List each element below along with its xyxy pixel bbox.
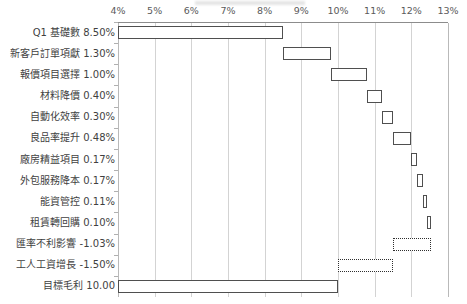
x-tick-label: 7%	[220, 5, 235, 16]
category-label: 外包服務降本 0.17%	[20, 175, 115, 187]
category-label: 匯率不利影響 -1.03%	[16, 238, 115, 250]
category-label: 報價項目選擇 1.00%	[20, 69, 115, 81]
axis-tick	[114, 212, 118, 213]
axis-tick	[114, 149, 118, 150]
category-label: 自動化效率 0.30%	[30, 111, 115, 123]
x-tick-label: 11%	[364, 5, 385, 16]
axis-tick	[114, 234, 118, 235]
category-label: 能資管控 0.11%	[40, 196, 115, 208]
waterfall-bar[interactable]	[382, 111, 393, 124]
axis-tick	[114, 191, 118, 192]
x-tick-label: 8%	[257, 5, 272, 16]
x-tick-label: 10%	[327, 5, 348, 16]
waterfall-chart: 4%5%6%7%8%9%10%11%12%13% Q1 基礎數 8.50%新客戶…	[0, 0, 467, 304]
chart-rows: Q1 基礎數 8.50%新客戶訂單項獻 1.30%報價項目選擇 1.00%材料降…	[0, 22, 467, 297]
x-axis-tick-labels: 4%5%6%7%8%9%10%11%12%13%	[0, 0, 467, 22]
waterfall-bar[interactable]	[283, 47, 331, 60]
category-label: Q1 基礎數 8.50%	[33, 27, 115, 39]
waterfall-bar[interactable]	[393, 238, 431, 251]
category-label: 工人工資增長 -1.50%	[16, 259, 115, 271]
axis-tick	[114, 85, 118, 86]
x-tick-label: 6%	[184, 5, 199, 16]
axis-tick	[114, 170, 118, 171]
axis-tick	[114, 255, 118, 256]
category-label: 良品率提升 0.48%	[30, 132, 115, 144]
axis-tick	[114, 22, 118, 23]
category-label: 材料降價 0.40%	[40, 90, 115, 102]
x-tick-label: 13%	[437, 5, 458, 16]
waterfall-bar[interactable]	[423, 195, 427, 208]
axis-tick	[114, 43, 118, 44]
x-tick-label: 4%	[110, 5, 125, 16]
waterfall-bar[interactable]	[118, 280, 338, 293]
category-label: 目標毛利 10.00	[43, 280, 115, 292]
axis-tick	[114, 128, 118, 129]
axis-tick	[114, 107, 118, 108]
waterfall-bar[interactable]	[338, 259, 393, 272]
waterfall-bar[interactable]	[411, 153, 417, 166]
waterfall-bar[interactable]	[367, 90, 382, 103]
waterfall-bar[interactable]	[118, 26, 283, 39]
waterfall-bar[interactable]	[331, 68, 368, 81]
waterfall-bar[interactable]	[417, 174, 423, 187]
x-tick-label: 12%	[401, 5, 422, 16]
category-label: 廠房精益項目 0.17%	[20, 154, 115, 166]
waterfall-bar[interactable]	[427, 216, 431, 229]
x-tick-label: 5%	[147, 5, 162, 16]
axis-tick	[114, 64, 118, 65]
category-label: 租賃轉回購 0.10%	[30, 217, 115, 229]
x-tick-label: 9%	[294, 5, 309, 16]
waterfall-bar[interactable]	[393, 132, 411, 145]
axis-tick	[114, 276, 118, 277]
category-label: 新客戶訂單項獻 1.30%	[10, 48, 115, 60]
